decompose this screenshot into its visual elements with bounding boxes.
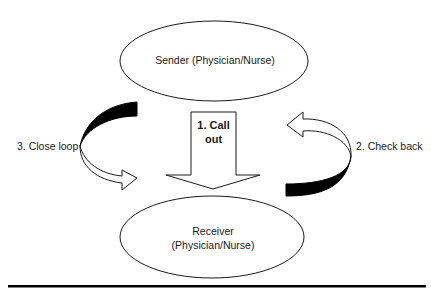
bottom-divider bbox=[8, 285, 426, 288]
call-out-label-line2: out bbox=[191, 133, 236, 145]
close-loop-arrow-icon bbox=[80, 102, 137, 146]
receiver-label-line1: Receiver bbox=[150, 225, 276, 237]
close-loop-label: 3. Close loop bbox=[17, 140, 78, 152]
check-back-arrow-icon bbox=[286, 156, 351, 196]
check-back-arrowhead bbox=[287, 112, 351, 156]
close-loop-arrowhead bbox=[80, 146, 137, 190]
receiver-node bbox=[120, 196, 304, 278]
check-back-label: 2. Check back bbox=[356, 140, 423, 152]
sender-label: Sender (Physician/Nurse) bbox=[150, 54, 280, 66]
call-out-label-line1: 1. Call bbox=[191, 119, 236, 131]
receiver-label-line2: (Physician/Nurse) bbox=[150, 239, 276, 251]
